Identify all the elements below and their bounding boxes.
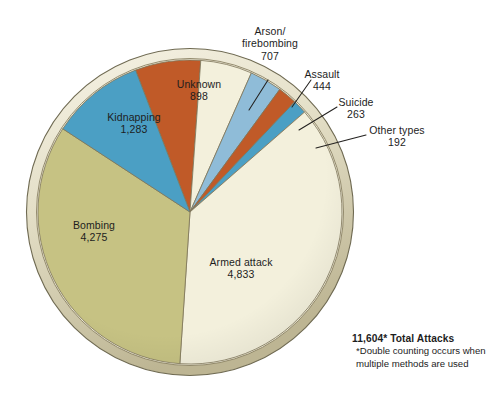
total-attacks-footnote: 11,604* Total Attacks *Double counting o…: [352, 333, 502, 370]
pie-slices: [38, 60, 342, 364]
callout-other-types-value: 192: [357, 136, 437, 148]
callout-suicide-name: Suicide: [338, 96, 373, 108]
callout-arson-name: Arson/ firebombing: [242, 25, 298, 49]
callout-assault-name: Assault: [304, 68, 339, 80]
pie-chart: Unknown 898 Kidnapping 1,283 Bombing 4,2…: [0, 0, 503, 394]
double-counting-note: *Double counting occurs when multiple me…: [352, 345, 502, 370]
callout-other-types-name: Other types: [369, 124, 424, 136]
callout-other-types: Other types 192: [357, 112, 437, 161]
total-attacks-label: 11,604* Total Attacks: [352, 333, 502, 345]
